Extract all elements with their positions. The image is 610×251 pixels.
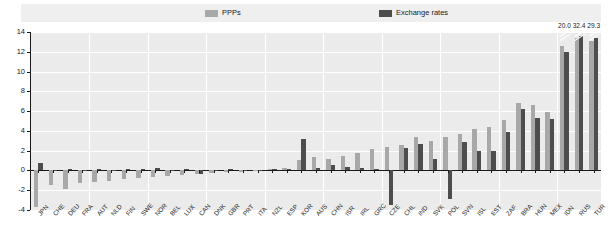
bar-est-exchange-rates	[491, 151, 495, 171]
x-axis-tick	[272, 170, 273, 173]
legend-swatch-ppps-icon	[205, 10, 218, 17]
y-axis-tick-label: 12	[7, 48, 25, 56]
x-axis-tick	[228, 170, 229, 173]
bar-pol-ppps	[443, 137, 447, 171]
bar-ind-exchange-rates	[418, 144, 422, 171]
x-axis-tick	[82, 170, 83, 173]
gridline-vertical	[265, 32, 266, 210]
gridline-vertical	[557, 32, 558, 210]
y-axis-tick-label: 8	[7, 87, 25, 95]
x-axis-tick	[199, 170, 200, 173]
gridline-horizontal	[31, 72, 601, 73]
legend-item-exchange-rates: Exchange rates	[379, 4, 448, 22]
bar-svk-exchange-rates	[433, 159, 437, 171]
gridline-vertical	[89, 32, 90, 210]
bar-rus-exchange-rates	[579, 36, 583, 170]
x-axis-tick	[594, 170, 595, 173]
x-axis-tick	[301, 170, 302, 173]
gridline-vertical	[206, 32, 207, 210]
bar-cze-ppps	[385, 147, 389, 171]
axis-break-mark-idn	[560, 36, 571, 44]
bar-bra-exchange-rates	[521, 109, 525, 170]
chart-legend: PPPs Exchange rates	[21, 4, 601, 22]
y-axis-tick	[27, 52, 30, 53]
legend-swatch-exchange-rates-icon	[379, 10, 392, 17]
x-axis-tick	[214, 170, 215, 173]
x-axis-tick	[97, 170, 98, 173]
x-axis-tick	[170, 170, 171, 173]
x-axis-tick	[316, 170, 317, 173]
x-axis-tick	[506, 170, 507, 173]
x-axis-tick	[535, 170, 536, 173]
legend-item-ppps: PPPs	[205, 4, 241, 22]
y-axis-tick-label: 0	[7, 166, 25, 174]
x-axis-tick	[111, 170, 112, 173]
x-axis-tick	[184, 170, 185, 173]
x-axis-tick	[433, 170, 434, 173]
y-axis-tick-label: 14	[7, 28, 25, 36]
bar-mex-exchange-rates	[550, 119, 554, 170]
gridline-vertical	[440, 32, 441, 210]
x-axis-tick	[155, 170, 156, 173]
y-axis-tick-label: -2	[7, 186, 25, 194]
x-axis-tick	[258, 170, 259, 173]
gridline-horizontal	[31, 32, 601, 33]
bar-cze-exchange-rates	[389, 170, 393, 205]
bar-grc-ppps	[370, 149, 374, 171]
y-axis-tick	[27, 91, 30, 92]
bar-isl-exchange-rates	[477, 151, 481, 171]
x-axis-tick	[345, 170, 346, 173]
y-axis-tick-label: 2	[7, 147, 25, 155]
x-axis-tick	[550, 170, 551, 173]
gridline-horizontal	[31, 190, 601, 191]
bar-chart: PPPs Exchange rates 14121086420-2-4 JPNC…	[0, 0, 610, 251]
y-axis-tick	[27, 170, 30, 171]
x-axis-tick	[521, 170, 522, 173]
x-axis-tick	[477, 170, 478, 173]
gridline-vertical	[499, 32, 500, 210]
x-axis-tick	[448, 170, 449, 173]
gridline-vertical	[148, 32, 149, 210]
y-axis-tick-label: 4	[7, 127, 25, 135]
x-axis-tick	[287, 170, 288, 173]
y-axis-tick	[27, 111, 30, 112]
y-axis-tick-label: 10	[7, 68, 25, 76]
bar-jpn-ppps	[34, 170, 38, 207]
y-axis-tick	[27, 151, 30, 152]
gridline-vertical	[323, 32, 324, 210]
y-axis-tick	[27, 190, 30, 191]
bar-chl-exchange-rates	[404, 148, 408, 171]
plot-area	[31, 32, 601, 210]
x-axis-tick	[360, 170, 361, 173]
gridline-vertical	[382, 32, 383, 210]
bar-tur-exchange-rates	[594, 38, 598, 171]
x-axis-tick	[68, 170, 69, 173]
legend-label-ppps: PPPs	[222, 9, 241, 17]
x-axis-tick	[418, 170, 419, 173]
axis-break-mark-tur	[589, 36, 600, 44]
x-axis-tick	[579, 170, 580, 173]
y-axis-labels: 14121086420-2-4	[0, 0, 25, 251]
y-axis-tick	[27, 72, 30, 73]
value-label-tur: 29.3	[585, 23, 603, 30]
x-axis-tick	[331, 170, 332, 173]
y-axis-tick	[27, 131, 30, 132]
x-axis-tick	[374, 170, 375, 173]
x-axis-tick	[491, 170, 492, 173]
x-axis-tick	[38, 170, 39, 173]
legend-label-exchange-rates: Exchange rates	[396, 9, 448, 17]
x-axis-tick	[462, 170, 463, 173]
bar-jpn-exchange-rates	[38, 163, 42, 171]
x-axis-tick	[389, 170, 390, 173]
bar-pol-exchange-rates	[448, 170, 452, 199]
gridline-horizontal	[31, 91, 601, 92]
axis-break-mark-rus	[575, 36, 586, 44]
x-axis-tick	[53, 170, 54, 173]
gridline-horizontal	[31, 52, 601, 53]
x-axis-tick	[564, 170, 565, 173]
bar-kor-exchange-rates	[301, 139, 305, 171]
bar-idn-exchange-rates	[564, 52, 568, 171]
bar-hun-exchange-rates	[535, 118, 539, 170]
bar-deu-ppps	[63, 170, 67, 189]
y-axis-tick-label: -4	[7, 206, 25, 214]
